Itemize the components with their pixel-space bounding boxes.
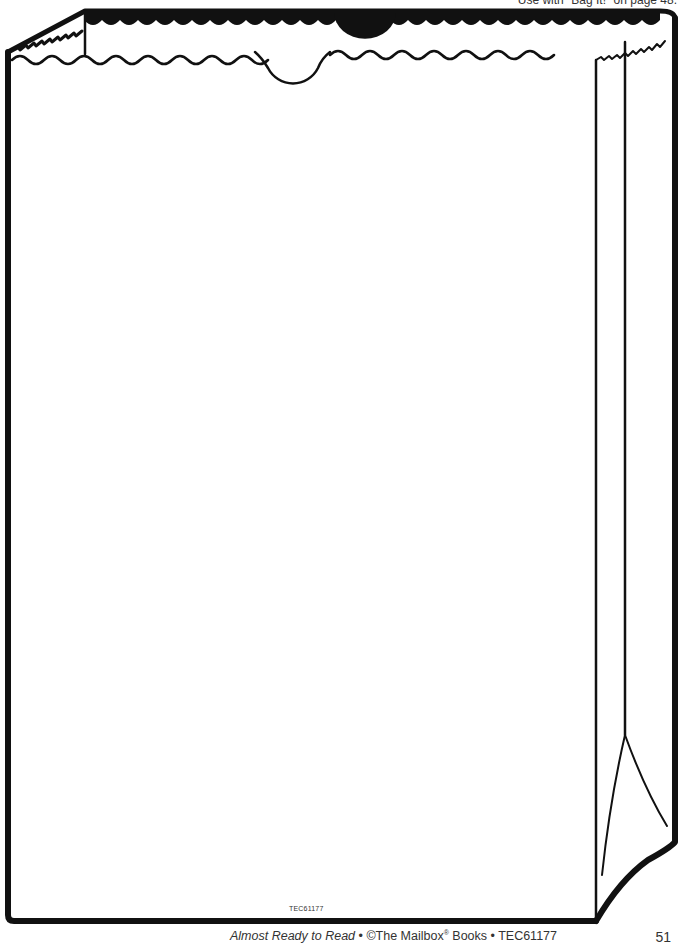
page-number: 51 <box>655 929 671 945</box>
copyright: ©The Mailbox <box>366 929 443 943</box>
paper-bag-illustration <box>0 0 683 945</box>
publisher-code: Books • TEC61177 <box>449 929 557 943</box>
separator: • <box>355 929 366 943</box>
footer-credit: Almost Ready to Read • ©The Mailbox® Boo… <box>230 929 557 943</box>
book-title: Almost Ready to Read <box>230 929 355 943</box>
bag-code: TEC61177 <box>289 905 324 912</box>
